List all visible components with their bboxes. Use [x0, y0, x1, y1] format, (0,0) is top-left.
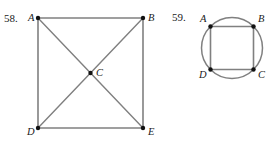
vertex-dot-A — [208, 24, 212, 28]
vertex-dot-C — [251, 67, 255, 71]
geometry-figures-svg: 58. ABEDC 59. ABCD — [0, 0, 273, 142]
figure-58: 58. ABEDC — [4, 12, 155, 137]
figure-59-vertex-dots — [208, 24, 255, 71]
vertex-label-D: D — [26, 126, 35, 137]
figure-board: 58. ABEDC 59. ABCD — [0, 0, 273, 142]
vertex-label-C: C — [96, 67, 104, 78]
vertex-dot-B — [251, 24, 255, 28]
vertex-dot-E — [141, 126, 145, 130]
vertex-dot-C — [88, 71, 92, 75]
figure-59-edges — [211, 27, 254, 70]
vertex-label-D: D — [198, 69, 207, 80]
vertex-dot-B — [141, 16, 145, 20]
vertex-dot-D — [36, 126, 40, 130]
vertex-dot-A — [36, 16, 40, 20]
vertex-label-C: C — [258, 69, 266, 80]
problem-number-59: 59. — [172, 11, 186, 23]
vertex-label-A: A — [27, 12, 35, 23]
vertex-dot-D — [208, 67, 212, 71]
vertex-label-B: B — [258, 13, 265, 24]
figure-59: 59. ABCD — [172, 11, 266, 80]
problem-number-58: 58. — [4, 12, 18, 24]
vertex-label-A: A — [199, 13, 207, 24]
vertex-label-B: B — [148, 12, 155, 23]
vertex-label-E: E — [147, 126, 155, 137]
